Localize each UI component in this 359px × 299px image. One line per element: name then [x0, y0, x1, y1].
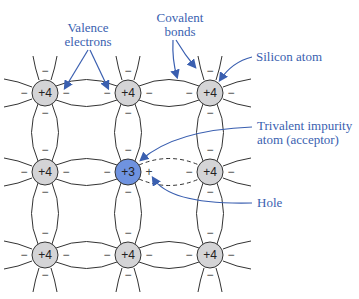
silicon-atom: +4−−−− [185, 64, 234, 120]
electron: − [41, 268, 48, 282]
electron: − [185, 86, 192, 100]
electron: − [41, 226, 48, 240]
electron: − [206, 268, 213, 282]
electron: − [62, 248, 69, 262]
electron: − [41, 143, 48, 157]
electron: − [20, 248, 27, 262]
trivalent-label-1: Trivalent impurity [257, 118, 353, 133]
electron: − [124, 143, 131, 157]
impurity-atom: +3−−−+ [103, 143, 152, 199]
svg-text:+4: +4 [203, 248, 217, 262]
trivalent-label-2: atom (acceptor) [257, 132, 339, 147]
svg-text:+4: +4 [203, 86, 217, 100]
electron: − [103, 248, 110, 262]
valence-label-2: electrons [65, 34, 112, 49]
silicon-atom: +4−−−− [20, 143, 69, 199]
valence-label-1: Valence [67, 20, 108, 35]
hole-symbol: + [145, 165, 152, 179]
electron: − [124, 64, 131, 78]
silicon-atom: +4−−−− [103, 226, 152, 282]
electron: − [124, 226, 131, 240]
electron: − [206, 185, 213, 199]
electron: − [124, 185, 131, 199]
covalent-label-1: Covalent [157, 10, 204, 25]
silicon-atom: +4−−−− [185, 226, 234, 282]
silicon-atom: +4−−−− [185, 143, 234, 199]
electron: − [62, 165, 69, 179]
electron: − [227, 165, 234, 179]
silicon-atom: +4−−−− [20, 226, 69, 282]
covalent-label-2: bonds [164, 24, 195, 39]
electron: − [145, 86, 152, 100]
electron: − [206, 226, 213, 240]
silicon-atom: +4−−−− [103, 64, 152, 120]
electron: − [20, 165, 27, 179]
electron: − [227, 248, 234, 262]
electron: − [185, 248, 192, 262]
electron: − [41, 185, 48, 199]
electron: − [145, 248, 152, 262]
electron: − [103, 165, 110, 179]
svg-text:+4: +4 [121, 248, 135, 262]
electron: − [41, 64, 48, 78]
svg-text:+4: +4 [203, 165, 217, 179]
silicon-lattice-diagram: +4−−−−+4−−−−+4−−−−+4−−−−+3−−−++4−−−−+4−−… [0, 0, 359, 299]
lattice-svg: +4−−−−+4−−−−+4−−−−+4−−−−+3−−−++4−−−−+4−−… [0, 0, 359, 299]
atoms: +4−−−−+4−−−−+4−−−−+4−−−−+3−−−++4−−−−+4−−… [20, 64, 234, 282]
electron: − [206, 143, 213, 157]
electron: − [103, 86, 110, 100]
electron: − [124, 106, 131, 120]
electron: − [206, 64, 213, 78]
hole-label: Hole [257, 195, 283, 210]
silicon-label: Silicon atom [256, 49, 322, 64]
svg-text:+4: +4 [38, 248, 52, 262]
svg-text:+4: +4 [38, 86, 52, 100]
electron: − [20, 86, 27, 100]
svg-text:+4: +4 [38, 165, 52, 179]
svg-text:+3: +3 [121, 165, 135, 179]
electron: − [185, 165, 192, 179]
electron: − [206, 106, 213, 120]
svg-text:+4: +4 [121, 86, 135, 100]
electron: − [124, 268, 131, 282]
silicon-atom: +4−−−− [20, 64, 69, 120]
electron: − [227, 86, 234, 100]
electron: − [62, 86, 69, 100]
electron: − [41, 106, 48, 120]
